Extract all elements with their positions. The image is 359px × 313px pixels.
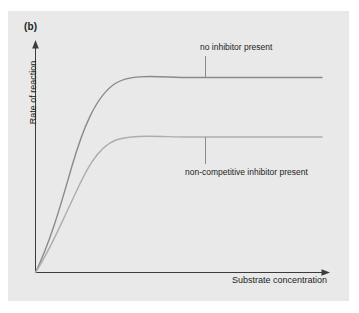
annotation-no-inhibitor: no inhibitor present [200,43,272,52]
curve-non-competitive-inhibitor [36,136,323,272]
figure-root: (b) Rate of reaction Substrate concentra… [0,0,359,313]
panel-letter: (b) [24,22,37,32]
chart-canvas [0,0,359,313]
y-axis-label: Rate of reaction [29,38,38,148]
annotation-non-competitive-inhibitor: non-competitive inhibitor present [185,168,308,177]
x-axis-label: Substrate concentration [232,276,327,285]
